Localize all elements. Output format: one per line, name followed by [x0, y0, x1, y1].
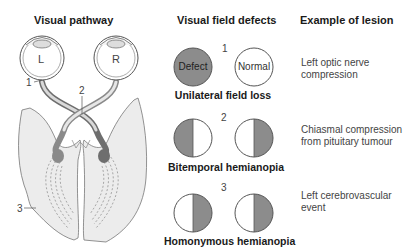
left-lgn	[52, 149, 64, 163]
row2-lesion: Chiasmal compression from pituitary tumo…	[301, 124, 402, 148]
row1-caption: Unilateral field loss	[168, 89, 278, 101]
pathway-marker-2: 2	[79, 85, 85, 96]
row3-right-circle	[235, 194, 273, 232]
row1-lesion-line1: Left optic nerve	[301, 57, 369, 69]
row3-lesion: Left cerebrovascular event	[301, 190, 392, 214]
right-lgn	[98, 149, 110, 163]
row1-lesion-line2: compression	[301, 69, 369, 81]
row1-lesion: Left optic nerve compression	[301, 57, 369, 81]
row3-lesion-line1: Left cerebrovascular	[301, 190, 392, 202]
right-eye-label: R	[112, 53, 120, 65]
left-hemisphere-shape	[19, 108, 81, 240]
left-eye-label: L	[38, 53, 44, 65]
row3-left-circle	[174, 194, 212, 232]
row2-number: 2	[221, 112, 227, 123]
row2-lesion-line1: Chiasmal compression	[301, 124, 402, 136]
pathway-marker-3: 3	[17, 203, 23, 214]
row3-number: 3	[221, 182, 227, 193]
row2-lesion-line2: from pituitary tumour	[301, 136, 402, 148]
row2-right-circle	[235, 119, 273, 157]
row1-number: 1	[222, 43, 228, 54]
row2-caption: Bitemporal hemianopia	[168, 161, 278, 173]
row1-normal-label: Normal	[235, 61, 273, 72]
row2-left-circle	[174, 119, 212, 157]
row1-defect-label: Defect	[174, 61, 212, 72]
pathway-marker-1: 1	[26, 77, 32, 88]
row3-caption: Homonymous hemianopia	[164, 235, 282, 247]
row3-lesion-line2: event	[301, 202, 392, 214]
